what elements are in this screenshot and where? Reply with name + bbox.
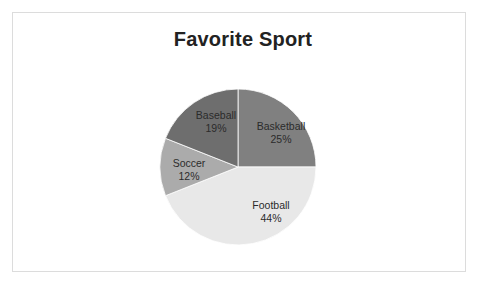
pie-chart-svg xyxy=(0,0,486,292)
pie-slice-basketball[interactable] xyxy=(238,89,316,167)
pie-chart: Basketball25%Football44%Soccer12%Basebal… xyxy=(0,0,486,292)
pie-slice-group xyxy=(160,89,316,245)
chart-slide: Favorite Sport Basketball25%Football44%S… xyxy=(0,0,486,292)
